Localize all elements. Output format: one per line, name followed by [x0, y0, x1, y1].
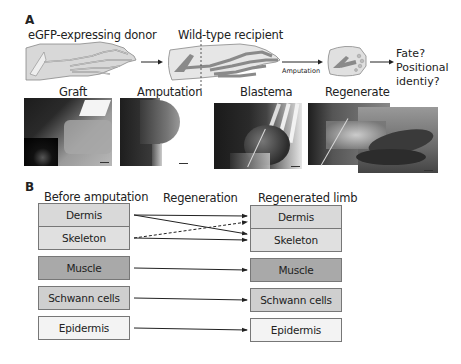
arrow-dermis-to-dermis [134, 215, 247, 216]
panel-b-arrows [0, 0, 461, 364]
arrow-schwann-to-schwann [134, 298, 247, 300]
arrow-muscle-to-muscle [134, 268, 247, 270]
arrow-epidermis-to-epidermis [134, 328, 247, 330]
arrow-skeleton-to-skeleton [134, 238, 247, 240]
